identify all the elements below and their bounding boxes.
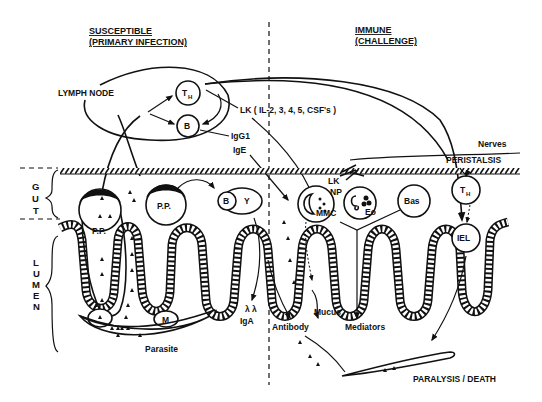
antibody-coat-line bbox=[305, 336, 345, 372]
np-label: NP bbox=[330, 187, 342, 197]
svg-text:Y: Y bbox=[244, 196, 250, 206]
iga-label: IgA bbox=[240, 316, 254, 326]
ige-label: IgE bbox=[233, 145, 247, 155]
svg-text:SUSCEPTIBLE: SUSCEPTIBLE bbox=[89, 26, 152, 36]
svg-text:N: N bbox=[33, 301, 40, 312]
svg-text:P.P.: P.P. bbox=[157, 201, 171, 211]
mucus-label: Mucus bbox=[314, 307, 341, 317]
svg-text:E: E bbox=[33, 290, 39, 301]
svg-text:B: B bbox=[184, 121, 190, 131]
svg-text:IMMUNE: IMMUNE bbox=[355, 25, 392, 35]
svg-text:G: G bbox=[32, 181, 39, 192]
svg-text:MMC: MMC bbox=[316, 208, 336, 218]
arrow-to-th bbox=[148, 96, 172, 112]
igg1-label: IgG1 bbox=[231, 131, 250, 141]
svg-text:U: U bbox=[32, 193, 39, 204]
lymph-down-line bbox=[118, 115, 140, 176]
lumen-region-label: L U M E N bbox=[32, 236, 58, 352]
svg-text:H: H bbox=[466, 191, 470, 197]
th-to-lk-line bbox=[206, 90, 238, 108]
svg-text:L: L bbox=[33, 257, 39, 268]
gut-surface bbox=[60, 168, 520, 174]
th-node: T H bbox=[176, 81, 200, 105]
section-header-susceptible: SUSCEPTIBLE (PRIMARY INFECTION) bbox=[89, 26, 187, 47]
svg-text:U: U bbox=[33, 268, 40, 279]
svg-text:Bas: Bas bbox=[404, 196, 420, 206]
intestinal-villi bbox=[60, 222, 508, 317]
svg-text:M: M bbox=[32, 279, 40, 290]
eosinophil: Eo bbox=[344, 187, 376, 219]
svg-text:IEL: IEL bbox=[457, 233, 470, 243]
section-header-immune: IMMUNE (CHALLENGE) bbox=[355, 25, 417, 46]
svg-text:B: B bbox=[223, 196, 229, 206]
pp-to-b-arrow bbox=[178, 180, 214, 188]
parasite-right: PARALYSIS / DEATH bbox=[305, 336, 496, 384]
nerves-label: Nerves bbox=[478, 139, 507, 149]
svg-text:(PRIMARY INFECTION): (PRIMARY INFECTION) bbox=[89, 37, 187, 47]
lymph-node: LYMPH NODE bbox=[58, 67, 229, 140]
arrow-to-b bbox=[150, 114, 174, 124]
lk-label: LK bbox=[328, 176, 340, 186]
svg-text:LYMPH NODE: LYMPH NODE bbox=[58, 88, 114, 98]
mediators-label: Mediators bbox=[345, 322, 385, 332]
peyers-patch-2: P.P. bbox=[146, 185, 186, 226]
svg-text:PARALYSIS / DEATH: PARALYSIS / DEATH bbox=[413, 374, 496, 384]
lk-cytokines-label: LK ( IL-2, 3, 4, 5, CSF's ) bbox=[240, 105, 336, 115]
svg-text:Eo: Eo bbox=[365, 207, 376, 217]
pp-to-lymph-arrow bbox=[102, 116, 140, 192]
basophil: Bas bbox=[398, 185, 430, 217]
svg-text:T: T bbox=[33, 205, 39, 216]
b-gut: B Y bbox=[218, 188, 262, 214]
svg-text:(CHALLENGE): (CHALLENGE) bbox=[355, 36, 417, 46]
svg-text:Parasite: Parasite bbox=[145, 344, 178, 354]
iel: IEL bbox=[452, 224, 480, 252]
gut-region-label: G U T bbox=[32, 170, 58, 218]
arrow-th-to-b bbox=[203, 94, 221, 124]
peristalsis-label: PERISTALSIS bbox=[446, 155, 501, 165]
svg-text:P.P.: P.P. bbox=[92, 226, 106, 236]
th-gut: T H bbox=[452, 176, 480, 204]
svg-text:H: H bbox=[188, 94, 192, 100]
antibody-glyphs: λ λ bbox=[245, 304, 257, 314]
th-to-iel-arrow bbox=[467, 205, 470, 222]
antibody-label: Antibody bbox=[272, 322, 309, 332]
b-node: B bbox=[177, 115, 199, 137]
diagram-canvas: SUSCEPTIBLE (PRIMARY INFECTION) IMMUNE (… bbox=[0, 0, 542, 402]
